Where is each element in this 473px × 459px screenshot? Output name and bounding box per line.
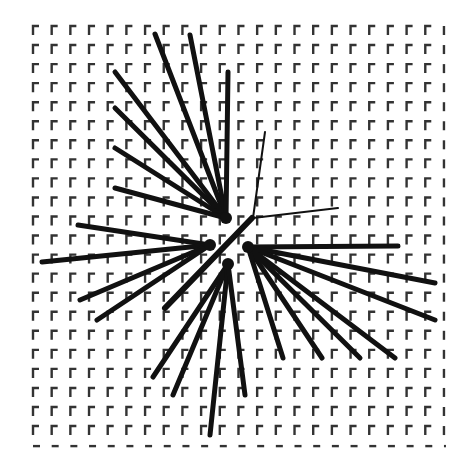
grid-marker <box>182 26 188 35</box>
grid-marker <box>313 197 319 206</box>
grid-marker <box>313 64 319 73</box>
grid-marker <box>407 159 413 168</box>
grid-marker <box>145 178 151 187</box>
grid-marker <box>257 64 263 73</box>
grid-marker <box>70 217 76 226</box>
grid-marker <box>388 159 394 168</box>
grid-marker <box>295 236 301 245</box>
grid-marker <box>332 102 338 111</box>
grid-marker <box>425 331 431 340</box>
grid-marker <box>388 26 394 35</box>
grid-marker <box>257 407 263 416</box>
grid-marker <box>52 178 58 187</box>
grid-marker <box>425 255 431 264</box>
grid-marker <box>89 312 95 321</box>
grid-marker <box>126 45 132 54</box>
grid-marker <box>295 369 301 378</box>
grid-marker <box>52 274 58 283</box>
grid-marker <box>33 178 39 187</box>
corner-grid <box>33 26 446 446</box>
grid-marker <box>351 83 357 92</box>
grid-marker <box>108 197 114 206</box>
grid-marker <box>351 159 357 168</box>
grid-marker <box>276 45 282 54</box>
grid-marker <box>388 45 394 54</box>
grid-marker <box>33 369 39 378</box>
grid-marker <box>33 388 39 397</box>
grid-marker <box>369 159 375 168</box>
grid-marker <box>369 121 375 130</box>
grid-marker <box>351 388 357 397</box>
grid-marker <box>295 140 301 149</box>
grid-marker <box>52 293 58 302</box>
grid-marker <box>369 350 375 359</box>
grid-marker <box>332 26 338 35</box>
grid-marker <box>332 159 338 168</box>
grid-marker <box>369 426 375 435</box>
grid-marker <box>238 255 244 264</box>
grid-marker <box>52 350 58 359</box>
grid-marker <box>369 178 375 187</box>
grid-marker <box>295 102 301 111</box>
grid-marker <box>70 64 76 73</box>
grid-marker <box>369 312 375 321</box>
grid-marker <box>332 293 338 302</box>
grid-marker <box>70 159 76 168</box>
grid-marker <box>238 426 244 435</box>
grid-marker <box>425 159 431 168</box>
grid-marker <box>89 159 95 168</box>
grid-marker <box>425 388 431 397</box>
grid-marker <box>425 197 431 206</box>
grid-marker <box>369 45 375 54</box>
grid-marker <box>369 217 375 226</box>
grid-marker <box>126 178 132 187</box>
grid-marker <box>407 331 413 340</box>
grid-marker <box>164 407 170 416</box>
grid-marker <box>407 83 413 92</box>
grid-marker <box>388 83 394 92</box>
grid-marker <box>52 45 58 54</box>
grid-marker <box>351 426 357 435</box>
grid-marker <box>313 102 319 111</box>
grid-marker <box>126 197 132 206</box>
grid-marker <box>351 331 357 340</box>
grid-marker <box>276 369 282 378</box>
grid-marker <box>70 45 76 54</box>
grid-marker <box>295 217 301 226</box>
grid-marker <box>369 102 375 111</box>
fan-line <box>226 72 228 218</box>
grid-marker <box>369 26 375 35</box>
grid-marker <box>332 45 338 54</box>
grid-marker <box>313 83 319 92</box>
grid-marker <box>145 331 151 340</box>
grid-marker <box>126 369 132 378</box>
grid-marker <box>52 121 58 130</box>
grid-marker <box>182 83 188 92</box>
grid-marker <box>201 64 207 73</box>
grid-marker <box>238 274 244 283</box>
fan-hub <box>204 239 216 251</box>
grid-marker <box>70 274 76 283</box>
fan-hub <box>222 258 234 270</box>
grid-marker <box>295 331 301 340</box>
grid-marker <box>33 293 39 302</box>
grid-marker <box>388 217 394 226</box>
grid-marker <box>126 350 132 359</box>
grid-marker <box>369 236 375 245</box>
grid-marker <box>332 426 338 435</box>
grid-marker <box>126 217 132 226</box>
grid-marker <box>351 217 357 226</box>
grid-marker <box>276 426 282 435</box>
grid-marker <box>332 350 338 359</box>
grid-marker <box>145 217 151 226</box>
grid-marker <box>276 140 282 149</box>
grid-marker <box>388 331 394 340</box>
grid-marker <box>33 217 39 226</box>
grid-marker <box>145 369 151 378</box>
grid-marker <box>257 26 263 35</box>
grid-marker <box>238 159 244 168</box>
grid-marker <box>238 64 244 73</box>
grid-marker <box>33 312 39 321</box>
fan-line <box>155 34 226 218</box>
grid-marker <box>145 274 151 283</box>
